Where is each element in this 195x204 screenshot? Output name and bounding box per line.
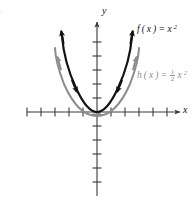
function-name-h: h xyxy=(137,71,142,81)
rhs-base-f: x xyxy=(168,25,172,35)
paren-close-h: ) xyxy=(155,71,158,81)
variable-h: x xyxy=(149,71,153,81)
curve-label-f: f(x)=x2 xyxy=(137,25,177,35)
equals-sign-h: = xyxy=(161,71,166,81)
rhs-base-h: x xyxy=(178,71,182,81)
rhs-exponent-h: 2 xyxy=(184,70,187,76)
fraction-denominator: 2 xyxy=(170,75,175,83)
fraction-numerator: 1 xyxy=(170,69,175,76)
x-axis-label: x xyxy=(183,105,187,115)
y-axis-label: y xyxy=(102,6,106,16)
curve-label-h: h(x)=12x2 xyxy=(137,68,187,83)
parabola-figure: ) xyxy=(0,0,195,204)
equals-sign-f: = xyxy=(159,25,164,35)
y-axis xyxy=(93,22,102,196)
equation-h: h(x)=12x2 xyxy=(137,68,187,83)
paren-close-f: ) xyxy=(153,25,156,35)
function-name-f: f xyxy=(137,25,140,35)
variable-f: x xyxy=(147,25,151,35)
rhs-exponent-f: 2 xyxy=(174,24,177,30)
equation-f: f(x)=x2 xyxy=(137,25,177,35)
fraction-one-half: 12 xyxy=(170,69,175,84)
paren-open-f: ( xyxy=(142,25,145,35)
paren-open-h: ( xyxy=(144,71,147,81)
